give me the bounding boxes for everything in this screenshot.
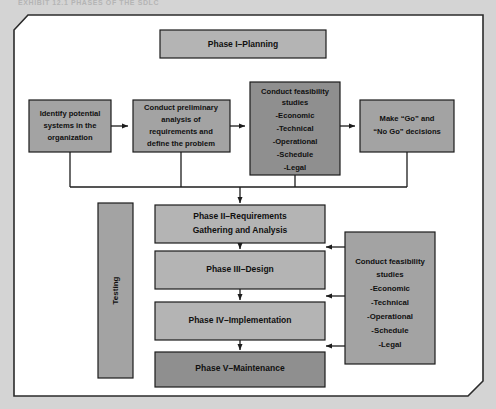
node-identify-systems[interactable]: Identify potential systems in the organi… <box>29 100 111 152</box>
node-phase3[interactable]: Phase III–Design <box>155 251 325 289</box>
node-identify-line3: organization <box>47 133 93 142</box>
node-phase2[interactable]: Phase II–Requirements Gathering and Anal… <box>155 205 325 243</box>
node-phase3-label: Phase III–Design <box>206 264 274 274</box>
node-feasibility-top-line5: -Operational <box>273 137 318 146</box>
node-phase4[interactable]: Phase IV–Implementation <box>155 302 325 340</box>
sdlc-flow-diagram: Phase I–Planning Identify potential syst… <box>0 0 496 409</box>
node-phase5[interactable]: Phase V–Maintenance <box>155 352 325 387</box>
node-feasibility-bottom-line7: -Legal <box>379 340 402 349</box>
node-preliminary-line2: analysis of <box>161 115 201 124</box>
node-identify-line1: Identify potential <box>40 109 101 118</box>
node-feasibility-bottom-line3: -Economic <box>370 284 411 293</box>
node-feasibility-top-line4: -Technical <box>277 124 314 133</box>
node-gonogo-line1: Make “Go” and <box>380 114 435 123</box>
node-testing-label: Testing <box>111 276 120 304</box>
node-go-nogo-decision[interactable]: Make “Go” and “No Go” decisions <box>360 100 454 152</box>
node-testing[interactable]: Testing <box>98 203 133 378</box>
node-feasibility-bottom-line6: -Schedule <box>371 326 409 335</box>
node-phase1-label: Phase I–Planning <box>208 39 278 49</box>
node-feasibility-top-line7: -Legal <box>284 163 306 172</box>
node-feasibility-top-line3: -Economic <box>276 111 315 120</box>
node-feasibility-studies-bottom[interactable]: Conduct feasibility studies -Economic -T… <box>345 232 435 364</box>
node-phase1[interactable]: Phase I–Planning <box>160 30 326 58</box>
node-phase2-line1: Phase II–Requirements <box>193 211 287 221</box>
node-feasibility-studies-top[interactable]: Conduct feasibility studies -Economic -T… <box>250 82 340 175</box>
node-gonogo-line2: “No Go” decisions <box>373 127 441 136</box>
node-phase5-label: Phase V–Maintenance <box>195 363 285 373</box>
node-feasibility-top-line1: Conduct feasibility <box>261 87 330 96</box>
node-feasibility-top-line2: studies <box>282 98 309 107</box>
node-identify-line2: systems in the <box>44 121 97 130</box>
diagram-page: EXHIBIT 12.1 PHASES OF THE SDLC <box>0 0 496 409</box>
node-feasibility-bottom-line1: Conduct feasibility <box>355 257 425 266</box>
node-preliminary-line3: requirements and <box>149 127 213 136</box>
node-feasibility-bottom-line5: -Operational <box>367 312 413 321</box>
node-phase2-line2: Gathering and Analysis <box>193 225 288 235</box>
node-feasibility-bottom-line2: studies <box>376 270 404 279</box>
node-feasibility-bottom-line4: -Technical <box>371 298 409 307</box>
node-feasibility-top-line6: -Schedule <box>277 150 313 159</box>
node-preliminary-line1: Conduct preliminary <box>144 103 219 112</box>
node-phase4-label: Phase IV–Implementation <box>189 315 292 325</box>
node-preliminary-analysis[interactable]: Conduct preliminary analysis of requirem… <box>133 100 230 152</box>
node-preliminary-line4: define the problem <box>147 139 215 148</box>
